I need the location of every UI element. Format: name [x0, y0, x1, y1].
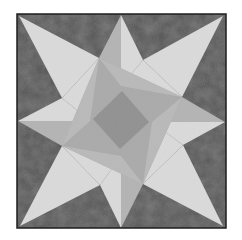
- fabric-grain-overlay: [17, 14, 226, 228]
- quilt-block: [0, 0, 242, 240]
